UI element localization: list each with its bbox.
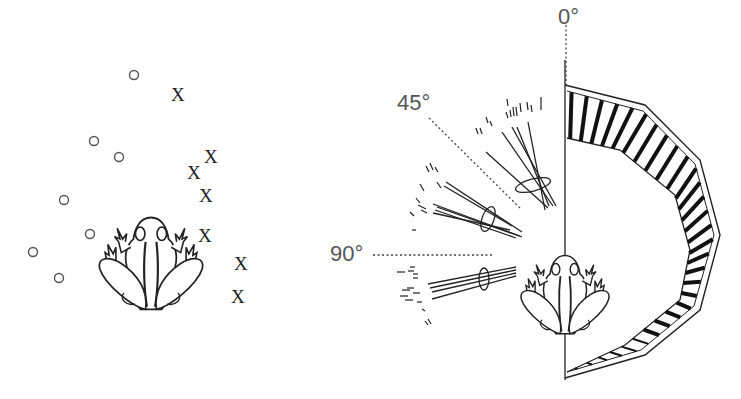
prey-x-mark: X: [231, 287, 245, 306]
trajectory-rays-90-135: [428, 267, 516, 299]
prey-circle: [86, 230, 95, 239]
prey-x-mark: X: [171, 85, 185, 104]
prey-x-mark: X: [187, 163, 201, 182]
prey-circle: [90, 137, 99, 146]
trajectory-rays-45-90: [433, 182, 522, 238]
prey-circle: [130, 71, 139, 80]
prey-x-mark: X: [199, 186, 213, 205]
prey-circle: [55, 274, 64, 283]
angle-label: 45°: [397, 92, 430, 114]
left-frog: [99, 218, 202, 310]
prey-circle: [29, 248, 38, 257]
angle-label: 90°: [330, 243, 363, 265]
right-frog: [521, 256, 609, 334]
prey-x-mark: X: [198, 226, 212, 245]
prey-x-mark: X: [234, 254, 248, 273]
striped-arena-band: [565, 85, 720, 378]
prey-x-mark: X: [204, 147, 218, 166]
angle-label: 0°: [558, 6, 579, 28]
figure-drawing: [0, 0, 741, 399]
trajectory-rays-0-45: [486, 122, 556, 210]
frog-figure: XXXXXXX 0°45°90°: [0, 0, 741, 399]
forty-five-degree-line: [429, 118, 520, 208]
prey-circle: [115, 153, 124, 162]
prey-circle: [60, 196, 69, 205]
